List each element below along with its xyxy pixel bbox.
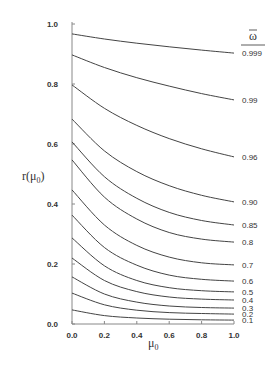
curve-label: 0.1 — [242, 316, 254, 325]
curve-omega-0.5 — [72, 238, 234, 292]
curve-omega-0.999 — [72, 34, 234, 53]
curve-label: 0.96 — [242, 153, 258, 162]
curve-label: 0.8 — [242, 238, 254, 247]
curve-omega-0.4 — [72, 258, 234, 300]
curve-omega-0.6 — [72, 215, 234, 281]
y-tick-label: 0.8 — [47, 80, 59, 89]
curve-label: 0.85 — [242, 221, 258, 230]
curve-omega-0.2 — [72, 293, 234, 314]
curves — [72, 34, 234, 320]
axes — [72, 22, 234, 324]
y-tick-label: 1.0 — [47, 20, 59, 29]
x-tick-label: 0.6 — [164, 331, 176, 340]
y-ticks: 0.00.20.40.60.81.0 — [47, 20, 75, 329]
curve-omega-0.85 — [72, 142, 234, 225]
curve-label: 0.7 — [242, 261, 254, 270]
legend-title: ω — [241, 29, 265, 45]
chart: 0.00.20.40.60.81.0 0.00.20.40.60.81.0 0.… — [0, 0, 276, 365]
y-tick-label: 0.6 — [47, 140, 59, 149]
y-tick-label: 0.0 — [47, 320, 59, 329]
y-axis-title: r(μ0) — [22, 169, 44, 185]
y-tick-label: 0.2 — [47, 260, 59, 269]
x-axis-title: μ0 — [148, 336, 158, 352]
omega-symbol: ω — [249, 29, 257, 43]
x-tick-label: 1.0 — [228, 331, 240, 340]
x-tick-label: 0.8 — [196, 331, 208, 340]
curve-omega-0.8 — [72, 160, 234, 242]
curve-label: 0.99 — [242, 96, 258, 105]
curve-label: 0.90 — [242, 198, 258, 207]
x-tick-label: 0.2 — [99, 331, 111, 340]
x-tick-label: 0.0 — [66, 331, 78, 340]
curve-omega-0.3 — [72, 277, 234, 308]
curve-label: 0.6 — [242, 277, 254, 286]
x-tick-label: 0.4 — [131, 331, 143, 340]
curve-labels: 0.9990.990.960.900.850.80.70.60.50.40.30… — [242, 49, 263, 325]
curve-label: 0.999 — [242, 49, 263, 58]
curve-omega-0.7 — [72, 190, 234, 265]
curve-omega-0.99 — [72, 55, 234, 100]
y-tick-label: 0.4 — [47, 200, 59, 209]
